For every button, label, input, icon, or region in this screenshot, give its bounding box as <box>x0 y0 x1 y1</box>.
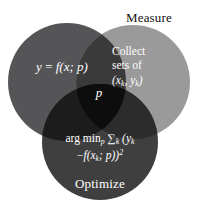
venn-circles-graphic <box>0 0 198 205</box>
venn-diagram: Model Measure y = f(x; p) Collect sets o… <box>0 0 198 205</box>
